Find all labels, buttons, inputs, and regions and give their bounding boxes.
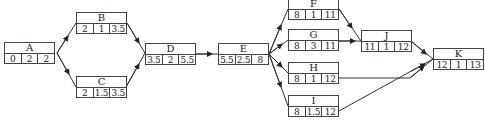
- earliest-start-cell: 5.5: [219, 55, 236, 65]
- earliest-finish-cell: 12: [395, 42, 411, 52]
- earliest-finish-cell: 2: [38, 54, 54, 64]
- earliest-start-cell: 8: [289, 107, 306, 117]
- activity-node-c: C21.53.5: [76, 76, 127, 98]
- activity-node-j: J11112: [361, 30, 412, 52]
- earliest-start-cell: 2: [77, 88, 94, 98]
- activity-name: E: [219, 44, 268, 55]
- earliest-start-cell: 11: [362, 42, 379, 52]
- activity-node-d: D3.525.5: [145, 43, 196, 65]
- activity-values-row: 3.525.5: [146, 55, 195, 65]
- activity-node-e: E5.52.58: [218, 43, 269, 65]
- activity-values-row: 11112: [362, 42, 411, 52]
- earliest-start-cell: 12: [434, 60, 451, 70]
- activity-values-row: 12113: [434, 60, 483, 70]
- activity-values-row: 8112: [289, 74, 338, 84]
- activity-node-h: H8112: [288, 62, 339, 84]
- activity-values-row: 5.52.58: [219, 55, 268, 65]
- activity-node-a: A022: [4, 42, 55, 64]
- duration-cell: 1.5: [94, 88, 111, 98]
- duration-cell: 1: [451, 60, 468, 70]
- earliest-finish-cell: 11: [322, 41, 338, 51]
- earliest-start-cell: 2: [77, 24, 94, 34]
- earliest-finish-cell: 12: [322, 74, 338, 84]
- duration-cell: 1: [306, 74, 323, 84]
- duration-cell: 2.5: [236, 55, 253, 65]
- activity-values-row: 213.5: [77, 24, 126, 34]
- earliest-start-cell: 8: [289, 10, 306, 20]
- activity-node-k: K12113: [433, 48, 484, 70]
- duration-cell: 1: [379, 42, 396, 52]
- activity-name: H: [289, 63, 338, 74]
- activity-name: I: [289, 96, 338, 107]
- activity-node-i: I81.512: [288, 95, 339, 117]
- activity-name: J: [362, 31, 411, 42]
- activity-name: B: [77, 13, 126, 24]
- activity-node-g: G8311: [288, 29, 339, 51]
- duration-cell: 1: [306, 10, 323, 20]
- activity-name: A: [5, 43, 54, 54]
- activity-values-row: 21.53.5: [77, 88, 126, 98]
- activity-values-row: 81.512: [289, 107, 338, 117]
- earliest-finish-cell: 13: [467, 60, 483, 70]
- duration-cell: 1: [94, 24, 111, 34]
- activity-node-b: B213.5: [76, 12, 127, 34]
- activity-name: C: [77, 77, 126, 88]
- activity-values-row: 022: [5, 54, 54, 64]
- earliest-start-cell: 0: [5, 54, 22, 64]
- earliest-start-cell: 8: [289, 74, 306, 84]
- earliest-finish-cell: 5.5: [179, 55, 195, 65]
- activity-values-row: 8311: [289, 41, 338, 51]
- duration-cell: 1.5: [306, 107, 323, 117]
- earliest-finish-cell: 3.5: [110, 88, 126, 98]
- duration-cell: 2: [163, 55, 180, 65]
- earliest-start-cell: 8: [289, 41, 306, 51]
- activity-name: K: [434, 49, 483, 60]
- activity-values-row: 8111: [289, 10, 338, 20]
- activity-node-f: F8111: [288, 0, 339, 20]
- earliest-finish-cell: 12: [322, 107, 338, 117]
- duration-cell: 2: [22, 54, 39, 64]
- earliest-finish-cell: 11: [322, 10, 338, 20]
- activity-name: G: [289, 30, 338, 41]
- activity-name: F: [289, 0, 338, 10]
- earliest-finish-cell: 8: [252, 55, 268, 65]
- earliest-finish-cell: 3.5: [110, 24, 126, 34]
- duration-cell: 3: [306, 41, 323, 51]
- activity-name: D: [146, 44, 195, 55]
- earliest-start-cell: 3.5: [146, 55, 163, 65]
